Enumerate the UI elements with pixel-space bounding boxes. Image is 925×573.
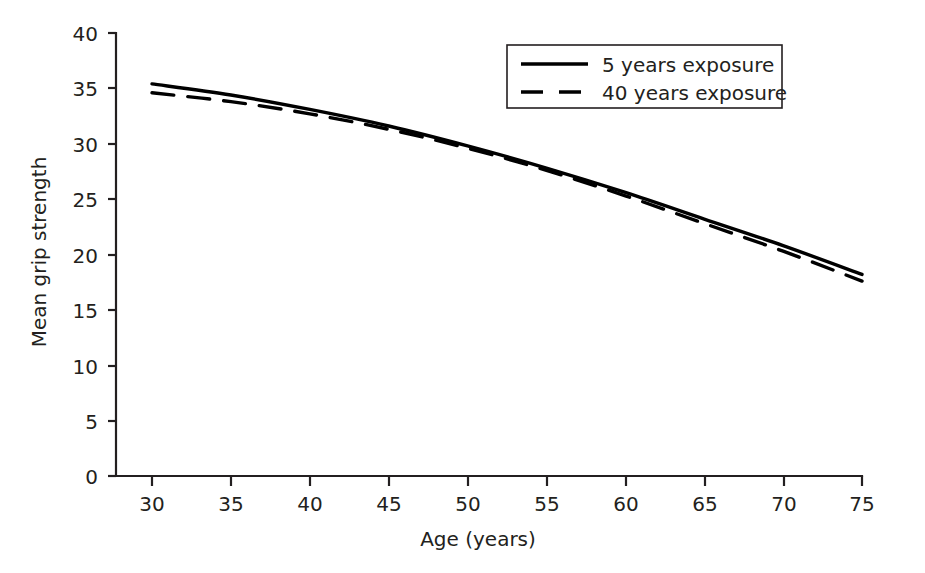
x-axis-tick-labels: 30 35 40 45 50 55 60 65 70 75 bbox=[139, 492, 874, 516]
y-tick-label: 20 bbox=[73, 244, 98, 268]
series-line-40-years-exposure bbox=[152, 93, 862, 281]
y-tick-label: 10 bbox=[73, 355, 98, 379]
y-tick-label: 15 bbox=[73, 299, 98, 323]
legend-label-40-years-exposure: 40 years exposure bbox=[602, 81, 787, 105]
y-axis-ticks bbox=[108, 33, 116, 476]
y-tick-label: 5 bbox=[85, 410, 98, 434]
y-tick-label: 0 bbox=[85, 465, 98, 489]
series-line-5-years-exposure bbox=[152, 84, 862, 275]
x-tick-label: 35 bbox=[218, 492, 243, 516]
x-tick-label: 55 bbox=[534, 492, 559, 516]
y-axis-tick-labels: 40 35 30 25 20 15 10 5 0 bbox=[73, 22, 98, 489]
x-tick-label: 50 bbox=[455, 492, 480, 516]
chart-legend: 5 years exposure 40 years exposure bbox=[507, 45, 787, 108]
x-tick-label: 40 bbox=[297, 492, 322, 516]
chart-page: 40 35 30 25 20 15 10 5 0 30 35 4 bbox=[0, 0, 925, 573]
y-tick-label: 40 bbox=[73, 22, 98, 46]
y-tick-label: 30 bbox=[73, 133, 98, 157]
x-tick-label: 60 bbox=[613, 492, 638, 516]
x-tick-label: 30 bbox=[139, 492, 164, 516]
x-tick-label: 75 bbox=[849, 492, 874, 516]
x-tick-label: 65 bbox=[692, 492, 717, 516]
x-tick-label: 70 bbox=[771, 492, 796, 516]
x-axis-title: Age (years) bbox=[420, 527, 536, 551]
series-group bbox=[152, 84, 862, 281]
y-tick-label: 35 bbox=[73, 77, 98, 101]
y-tick-label: 25 bbox=[73, 188, 98, 212]
x-axis-ticks bbox=[152, 476, 862, 486]
grip-strength-line-chart: 40 35 30 25 20 15 10 5 0 30 35 4 bbox=[0, 0, 925, 573]
legend-label-5-years-exposure: 5 years exposure bbox=[602, 53, 774, 77]
x-tick-label: 45 bbox=[376, 492, 401, 516]
y-axis-title: Mean grip strength bbox=[27, 157, 51, 348]
